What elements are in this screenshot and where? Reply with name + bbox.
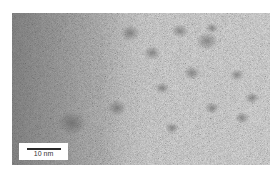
nanoparticle [165,122,179,134]
nanoparticle [58,111,87,135]
nanoparticle [230,69,244,81]
nanoparticle [196,32,218,50]
nanoparticle [107,100,126,116]
nanoparticle [235,112,249,124]
scale-bar: 10 nm [19,143,68,160]
nanoparticle [245,92,259,104]
nanoparticle [205,102,219,114]
nanoparticle [184,66,201,80]
nanoparticle [206,23,218,33]
nanoparticle [172,24,189,38]
tem-micrograph: 10 nm [12,13,270,165]
nanoparticle [144,46,161,60]
nanoparticle [120,25,139,41]
scale-bar-label: 10 nm [19,150,68,158]
nanoparticle [155,82,169,94]
